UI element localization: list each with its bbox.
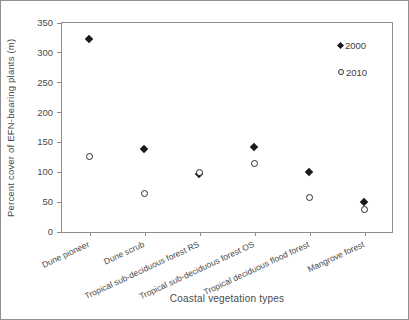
- legend-item-2010: 2010: [338, 67, 367, 77]
- filled-diamond-icon: [337, 41, 344, 48]
- y-tick-label: 150: [23, 137, 53, 147]
- legend-item-2000: 2000: [338, 40, 367, 50]
- y-tick-label: 100: [23, 167, 53, 177]
- y-tick-label: 200: [23, 108, 53, 118]
- y-tick-mark: [57, 23, 61, 24]
- open-circle-icon: [338, 69, 344, 75]
- data-point-2000: [250, 143, 258, 151]
- x-category-labels: Dune pioneerDune scrubTropical sub-decid…: [61, 233, 393, 291]
- data-point-2010: [141, 190, 148, 197]
- y-axis-title: Percent cover of EFN-bearing plants (m): [4, 22, 18, 233]
- y-tick-mark: [57, 202, 61, 203]
- data-point-2000: [140, 145, 148, 153]
- data-point-2010: [251, 160, 258, 167]
- data-point-2010: [306, 194, 313, 201]
- x-axis-title: Coastal vegetation types: [61, 293, 393, 304]
- data-point-2010: [361, 206, 368, 213]
- data-point-2000: [360, 197, 368, 205]
- y-tick-label: 300: [23, 48, 53, 58]
- data-point-2000: [305, 168, 313, 176]
- y-tick-label: 0: [23, 227, 53, 237]
- plot-area: 050100150200250300350 2000 2010: [61, 22, 393, 233]
- data-point-2010: [86, 153, 93, 160]
- y-tick-mark: [57, 112, 61, 113]
- y-tick-mark: [57, 82, 61, 83]
- y-tick-mark: [57, 142, 61, 143]
- y-tick-label: 50: [23, 197, 53, 207]
- y-tick-mark: [57, 172, 61, 173]
- legend-label-2000: 2000: [345, 40, 366, 51]
- data-point-2000: [85, 35, 93, 43]
- y-tick-label: 350: [23, 18, 53, 28]
- y-tick-mark: [57, 52, 61, 53]
- data-point-2010: [196, 169, 203, 176]
- legend: 2000 2010: [338, 40, 367, 94]
- y-tick-label: 250: [23, 78, 53, 88]
- chart-figure: Percent cover of EFN-bearing plants (m) …: [0, 0, 409, 320]
- legend-label-2010: 2010: [346, 67, 367, 78]
